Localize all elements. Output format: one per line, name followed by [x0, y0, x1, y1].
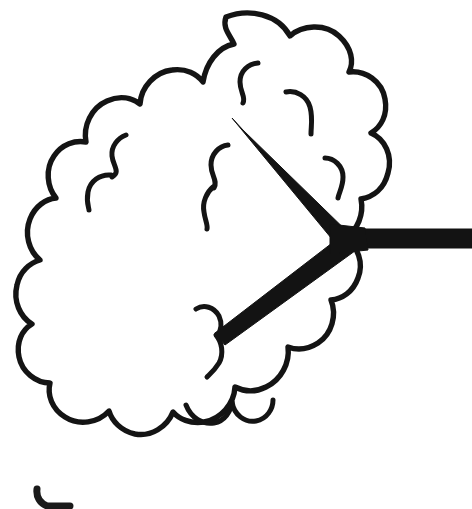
cloud-drawing — [0, 0, 472, 509]
figure-canvas: Black ink line drawing on a white backgr… — [0, 0, 472, 509]
background-rect — [0, 0, 472, 509]
prong-junction — [330, 224, 368, 254]
